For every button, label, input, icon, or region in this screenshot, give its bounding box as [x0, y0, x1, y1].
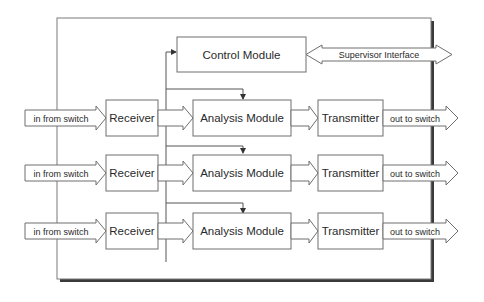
receiver-label: Receiver	[109, 167, 155, 179]
supervisor-interface-arrow: Supervisor Interface	[306, 45, 452, 64]
control-module: Control Module	[177, 37, 306, 72]
analysis-module-box: Analysis Module	[193, 213, 291, 249]
supervisor-interface-label: Supervisor Interface	[339, 50, 420, 60]
analysis-module-label: Analysis Module	[200, 167, 284, 179]
receiver-box: Receiver	[106, 155, 158, 191]
output-label: out to switch	[390, 169, 440, 179]
transmitter-label: Transmitter	[322, 167, 380, 179]
block-diagram: Control Module Supervisor Interface in f…	[0, 0, 484, 302]
transmitter-label: Transmitter	[322, 112, 380, 124]
input-arrow: in from switch	[25, 161, 106, 185]
analysis-module-label: Analysis Module	[200, 225, 284, 237]
transmitter-box: Transmitter	[318, 100, 383, 136]
transmitter-label: Transmitter	[322, 225, 380, 237]
output-label: out to switch	[390, 227, 440, 237]
input-arrow: in from switch	[25, 106, 106, 130]
receiver-label: Receiver	[109, 112, 155, 124]
transmitter-box: Transmitter	[318, 213, 383, 249]
analysis-module-box: Analysis Module	[193, 100, 291, 136]
control-module-label: Control Module	[203, 49, 281, 61]
processing-rows: in from switchReceiverAnalysis ModuleTra…	[25, 100, 458, 249]
input-arrow: in from switch	[25, 219, 106, 243]
input-label: in from switch	[33, 227, 88, 237]
output-arrow: out to switch	[383, 219, 458, 243]
receiver-label: Receiver	[109, 225, 155, 237]
analysis-module-box: Analysis Module	[193, 155, 291, 191]
analysis-module-label: Analysis Module	[200, 112, 284, 124]
input-label: in from switch	[33, 114, 88, 124]
input-label: in from switch	[33, 169, 88, 179]
transmitter-box: Transmitter	[318, 155, 383, 191]
output-arrow: out to switch	[383, 161, 458, 185]
receiver-box: Receiver	[106, 100, 158, 136]
output-label: out to switch	[390, 114, 440, 124]
output-arrow: out to switch	[383, 106, 458, 130]
receiver-box: Receiver	[106, 213, 158, 249]
